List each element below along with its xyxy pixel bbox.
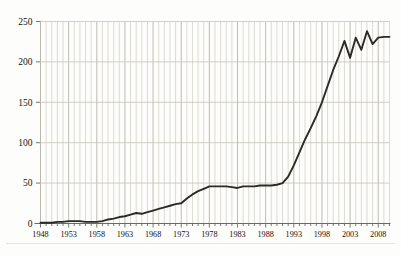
chart-svg: 050100150200250 194819531958196319681973… (0, 0, 401, 255)
x-tick-label: 1963 (117, 230, 133, 239)
x-tick-label: 1978 (201, 230, 217, 239)
line-chart: 050100150200250 194819531958196319681973… (0, 0, 401, 255)
x-tick-label: 1988 (257, 230, 273, 239)
x-tick-label: 1983 (229, 230, 245, 239)
x-tick-label: 1953 (60, 230, 76, 239)
y-tick-label: 250 (18, 17, 33, 27)
x-tick-label: 2003 (342, 230, 358, 239)
y-tick-label: 100 (18, 138, 33, 148)
x-tick-label: 1948 (32, 230, 48, 239)
y-tick-label: 150 (18, 98, 33, 108)
plot-area: 050100150200250 194819531958196319681973… (0, 0, 401, 255)
x-tick-label: 1973 (173, 230, 189, 239)
x-tick-label: 1993 (286, 230, 302, 239)
x-tick-label: 1958 (89, 230, 105, 239)
y-tick-label: 50 (23, 178, 33, 188)
x-tick-label: 2008 (370, 230, 386, 239)
x-tick-label: 1998 (314, 230, 330, 239)
y-tick-label: 200 (18, 57, 33, 67)
chart-background (0, 0, 401, 255)
y-tick-label: 0 (28, 219, 33, 229)
page-rule (6, 243, 395, 244)
x-tick-label: 1968 (145, 230, 161, 239)
